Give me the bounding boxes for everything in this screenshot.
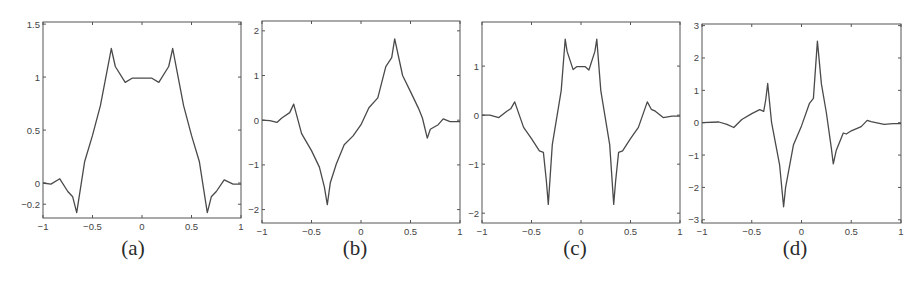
y-tick-label: 0 xyxy=(694,117,699,128)
subplot-b: −1−0.500.51−2−1012 xyxy=(248,21,462,237)
subplot-c: −1−0.500.51−2−101 xyxy=(468,22,682,237)
y-tick-label: −0.2 xyxy=(21,199,40,210)
y-tick-label: 0 xyxy=(35,178,40,189)
y-tick-label: −2 xyxy=(248,204,259,215)
y-tick-label: 3 xyxy=(694,20,699,31)
x-tick-label: 0.5 xyxy=(185,221,198,232)
y-tick-label: 0.5 xyxy=(27,125,40,136)
x-tick-label: 1 xyxy=(238,221,243,232)
caption-d: (d) xyxy=(783,236,808,261)
y-tick-label: 2 xyxy=(254,25,259,36)
y-tick-label: 1 xyxy=(35,72,40,83)
y-tick-label: −1 xyxy=(248,159,259,170)
y-tick-label: −1 xyxy=(688,150,699,161)
y-tick-label: 0 xyxy=(474,110,479,121)
x-tick-label: −0.5 xyxy=(522,226,541,237)
axes-box xyxy=(262,21,460,223)
x-tick-label: −1 xyxy=(38,221,49,232)
y-tick-label: −2 xyxy=(688,182,699,193)
y-tick-label: 1 xyxy=(694,85,699,96)
x-tick-label: −1 xyxy=(697,226,708,237)
x-tick-label: −1 xyxy=(257,226,268,237)
x-tick-label: −0.5 xyxy=(83,221,102,232)
x-tick-label: 1 xyxy=(898,226,903,237)
data-line xyxy=(43,49,241,213)
caption-b: (b) xyxy=(343,236,368,261)
subplot-a: −1−0.500.51−0.200.511.5 xyxy=(21,19,243,232)
data-line xyxy=(482,39,680,204)
x-tick-label: 1 xyxy=(677,226,682,237)
axes-box xyxy=(43,22,241,218)
x-tick-label: 0 xyxy=(139,221,144,232)
x-tick-label: 0.5 xyxy=(404,226,417,237)
x-tick-label: 0.5 xyxy=(624,226,637,237)
subplot-d: −1−0.500.51−3−2−10123 xyxy=(688,20,903,237)
x-tick-label: −1 xyxy=(477,226,488,237)
y-tick-label: 1 xyxy=(254,70,259,81)
figure: −1−0.500.51−0.200.511.5−1−0.500.51−2−101… xyxy=(0,0,924,281)
y-tick-label: 1 xyxy=(474,61,479,72)
caption-c: (c) xyxy=(563,236,586,261)
x-tick-label: −0.5 xyxy=(302,226,321,237)
x-tick-label: −0.5 xyxy=(742,226,761,237)
y-tick-label: −2 xyxy=(468,208,479,219)
x-tick-label: 1 xyxy=(457,226,462,237)
y-tick-label: −3 xyxy=(688,214,699,225)
y-tick-label: 2 xyxy=(694,52,699,63)
axes-box xyxy=(482,22,680,223)
caption-a: (a) xyxy=(121,236,144,261)
y-tick-label: 1.5 xyxy=(27,19,40,30)
data-line xyxy=(262,39,460,205)
y-tick-label: −1 xyxy=(468,159,479,170)
data-line xyxy=(702,41,901,207)
y-tick-label: 0 xyxy=(254,115,259,126)
x-tick-label: 0.5 xyxy=(845,226,858,237)
axes-box xyxy=(702,24,901,223)
